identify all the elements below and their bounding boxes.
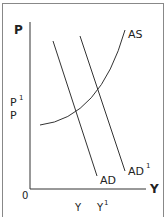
ad-as-diagram: P Y 0 P 1 P Y Y 1 AS AD AD 1 [0, 0, 168, 218]
output-y-label: Y [74, 202, 82, 213]
ad1-label: AD [128, 165, 144, 178]
price-p1-label: P [10, 96, 17, 109]
as-label: AS [128, 28, 143, 41]
ad1-curve [80, 36, 125, 171]
price-p-label: P [10, 109, 17, 122]
x-axis-label: Y [149, 182, 159, 196]
ad-curve [53, 41, 97, 176]
output-y1-sup: 1 [104, 199, 108, 207]
ad1-sup: 1 [146, 162, 150, 170]
diagram-frame: P Y 0 P 1 P Y Y 1 AS AD AD 1 [0, 0, 168, 218]
output-y1-label: Y [96, 202, 104, 213]
y-axis-label: P [14, 23, 23, 37]
ad-label: AD [100, 174, 116, 187]
price-p1-sup: 1 [19, 94, 23, 102]
origin-label: 0 [22, 190, 28, 201]
